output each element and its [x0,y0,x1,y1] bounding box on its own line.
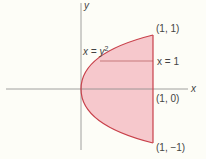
point-label-1-0: (1, 0) [156,93,179,104]
point-label-1-neg1: (1, −1) [156,142,185,153]
line-label: x = 1 [157,56,179,67]
y-axis-label: y [83,0,90,11]
x-axis-label: x [190,83,197,94]
region-diagram: y x x = y2 x = 1 (1, 1) (1, 0) (1, −1) [0,0,206,159]
curve-label-lhs: x = y [82,46,105,57]
curve-label-exp: 2 [104,45,108,52]
point-label-1-1: (1, 1) [156,23,179,34]
